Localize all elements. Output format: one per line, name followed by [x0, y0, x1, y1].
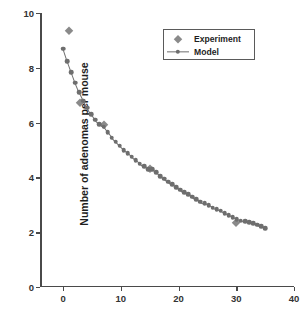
- y-tick-label: 6: [29, 117, 34, 128]
- model-data-point: [101, 124, 106, 129]
- x-tick-mark: [294, 287, 295, 291]
- y-tick-label: 2: [29, 227, 34, 238]
- y-tick-label: 8: [29, 62, 34, 73]
- y-tick-label: 0: [29, 282, 34, 293]
- model-data-point: [69, 70, 74, 75]
- y-axis-title-container: Number of adenomas per mouse: [0, 0, 16, 287]
- legend-label-model: Model: [194, 47, 219, 57]
- model-data-point: [61, 46, 66, 51]
- experiment-data-point: [64, 26, 73, 35]
- chart-legend: Experiment Model: [163, 29, 255, 60]
- model-data-point: [105, 130, 110, 135]
- model-data-point: [73, 81, 78, 86]
- figure-canvas: Number of adenomas per mouse 0246810 010…: [0, 0, 308, 309]
- legend-item-model: Model: [164, 45, 254, 58]
- x-tick-mark: [121, 287, 122, 291]
- model-data-point: [77, 90, 82, 95]
- y-tick-mark: [36, 287, 40, 288]
- diamond-marker-icon: [164, 32, 194, 45]
- x-tick-mark: [63, 287, 64, 291]
- legend-label-experiment: Experiment: [194, 34, 241, 44]
- model-data-point: [81, 98, 86, 103]
- x-tick-mark: [179, 287, 180, 291]
- model-data-point: [65, 59, 70, 64]
- model-data-point: [263, 226, 268, 231]
- y-tick-label: 4: [29, 172, 34, 183]
- figure-caption-cropped: [0, 303, 308, 309]
- line-circle-marker-icon: [164, 45, 194, 58]
- model-data-point: [89, 112, 94, 117]
- y-tick-label: 10: [23, 8, 34, 19]
- legend-item-experiment: Experiment: [164, 32, 254, 45]
- x-tick-mark: [236, 287, 237, 291]
- model-data-point: [85, 105, 90, 110]
